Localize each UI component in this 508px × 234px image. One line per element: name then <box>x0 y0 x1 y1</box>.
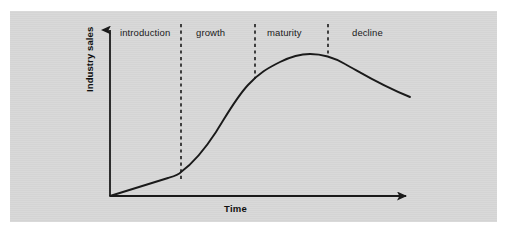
phase-label-introduction: introduction <box>120 27 170 38</box>
product-life-cycle-chart <box>0 0 508 234</box>
x-axis-label: Time <box>224 203 247 214</box>
phase-label-decline: decline <box>352 27 383 38</box>
phase-label-growth: growth <box>196 27 225 38</box>
y-axis-label: Industry sales <box>84 78 95 92</box>
figure-root: introduction growth maturity decline Ind… <box>0 0 508 234</box>
industry-sales-curve <box>110 54 410 196</box>
phase-label-maturity: maturity <box>267 27 302 38</box>
